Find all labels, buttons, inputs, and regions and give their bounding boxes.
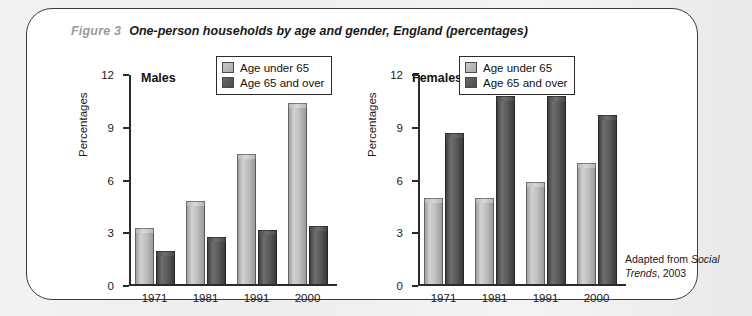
bar-males-2000-under-65 xyxy=(288,103,307,284)
bar-cap xyxy=(526,182,545,187)
x-axis-label-females-1971: 1971 xyxy=(431,292,457,304)
bar-cap xyxy=(424,198,443,203)
legend-swatch-light-icon xyxy=(465,62,477,73)
bar-females-1991-under-65 xyxy=(526,182,545,284)
x-axis-label-females-1981: 1981 xyxy=(482,292,508,304)
bar-males-2000-over-65 xyxy=(309,226,328,284)
y-tick-label-females-12: 12 xyxy=(390,69,403,81)
bar-group-females-1991: 1991 xyxy=(520,75,571,284)
legend-females: Age under 65 Age 65 and over xyxy=(459,56,575,95)
y-tick-label-males-6: 6 xyxy=(108,175,114,187)
bar-males-1981-over-65 xyxy=(207,237,226,284)
y-tick-label-females-6: 6 xyxy=(397,175,403,187)
bar-body xyxy=(156,255,175,284)
bar-body xyxy=(526,186,545,284)
legend-swatch-dark-icon xyxy=(465,77,477,88)
bar-cap xyxy=(186,201,205,206)
x-axis-line-males xyxy=(129,284,337,286)
bar-group-males-1971: 1971 xyxy=(129,75,180,284)
bar-cap xyxy=(598,115,617,120)
bar-body xyxy=(475,202,494,284)
bar-body xyxy=(496,100,515,284)
x-axis-label-females-2000: 2000 xyxy=(584,292,610,304)
y-tick-label-females-0: 0 xyxy=(397,280,403,292)
x-axis-label-males-1981: 1981 xyxy=(193,292,219,304)
bar-group-females-1971: 1971 xyxy=(418,75,469,284)
figure-title-text: One-person households by age and gender,… xyxy=(129,24,528,38)
bar-body xyxy=(135,232,154,284)
bar-body xyxy=(237,158,256,284)
bar-cap xyxy=(547,96,566,101)
y-tick-label-females-9: 9 xyxy=(397,122,403,134)
bar-females-2000-over-65 xyxy=(598,115,617,284)
bar-cap xyxy=(135,228,154,233)
bar-body xyxy=(186,205,205,284)
bar-groups-males: 1971198119912000 xyxy=(129,75,333,284)
x-axis-label-males-1971: 1971 xyxy=(142,292,168,304)
bar-cap xyxy=(258,230,277,235)
bar-body xyxy=(424,202,443,284)
chart-panel-males: Males Percentages 036912 197119811991200… xyxy=(83,65,345,295)
bar-cap xyxy=(445,133,464,138)
y-tick-label-males-3: 3 xyxy=(108,227,114,239)
bar-body xyxy=(598,119,617,284)
x-axis-label-males-2000: 2000 xyxy=(295,292,321,304)
bar-cap xyxy=(237,154,256,159)
bar-males-1971-under-65 xyxy=(135,228,154,284)
bar-males-1981-under-65 xyxy=(186,201,205,284)
y-tick-label-females-3: 3 xyxy=(397,227,403,239)
figure-number: Figure 3 xyxy=(71,24,121,38)
legend-item-over-65-females: Age 65 and over xyxy=(465,75,567,90)
legend-swatch-dark-icon xyxy=(222,77,234,88)
legend-males: Age under 65 Age 65 and over xyxy=(216,56,332,95)
bar-cap xyxy=(475,198,494,203)
y-tick-females-0: 0 xyxy=(412,285,418,287)
legend-item-under-65-males: Age under 65 xyxy=(222,60,324,75)
bar-body xyxy=(445,137,464,284)
bar-cap xyxy=(577,163,596,168)
source-attribution: Adapted from Social Trends, 2003 xyxy=(625,252,735,280)
y-tick-males-0: 0 xyxy=(123,285,129,287)
legend-label-under-65: Age under 65 xyxy=(240,62,309,74)
bar-females-1981-under-65 xyxy=(475,198,494,284)
y-axis-label-females: Percentages xyxy=(366,92,378,157)
legend-label-under-65: Age under 65 xyxy=(483,62,552,74)
bar-group-males-2000: 2000 xyxy=(282,75,333,284)
bar-body xyxy=(309,230,328,284)
bar-body xyxy=(288,107,307,284)
plot-area-males: 036912 1971198119912000 xyxy=(129,75,333,286)
y-tick-label-males-9: 9 xyxy=(108,122,114,134)
figure-card: Figure 3One-person households by age and… xyxy=(26,8,698,300)
bar-cap xyxy=(207,237,226,242)
bar-females-1981-over-65 xyxy=(496,96,515,284)
legend-swatch-light-icon xyxy=(222,62,234,73)
legend-label-over-65: Age 65 and over xyxy=(483,77,567,89)
bar-body xyxy=(207,241,226,284)
bar-group-females-2000: 2000 xyxy=(571,75,622,284)
chart-panel-females: Females Percentages 036912 1971198119912… xyxy=(372,65,634,295)
bar-males-1991-under-65 xyxy=(237,154,256,284)
x-axis-line-females xyxy=(418,284,626,286)
legend-label-over-65: Age 65 and over xyxy=(240,77,324,89)
bar-cap xyxy=(496,96,515,101)
bar-males-1971-over-65 xyxy=(156,251,175,284)
bar-females-1971-under-65 xyxy=(424,198,443,284)
bar-females-2000-under-65 xyxy=(577,163,596,284)
bar-group-males-1981: 1981 xyxy=(180,75,231,284)
bar-groups-females: 1971198119912000 xyxy=(418,75,622,284)
x-axis-label-females-1991: 1991 xyxy=(533,292,559,304)
legend-item-over-65-males: Age 65 and over xyxy=(222,75,324,90)
bar-group-males-1991: 1991 xyxy=(231,75,282,284)
figure-title: Figure 3One-person households by age and… xyxy=(71,24,528,38)
source-suffix: , 2003 xyxy=(657,267,686,279)
bar-cap xyxy=(309,226,328,231)
y-axis-label-males: Percentages xyxy=(77,92,89,157)
bar-males-1991-over-65 xyxy=(258,230,277,285)
legend-item-under-65-females: Age under 65 xyxy=(465,60,567,75)
bar-group-females-1981: 1981 xyxy=(469,75,520,284)
y-tick-label-males-12: 12 xyxy=(101,69,114,81)
bar-cap xyxy=(288,103,307,108)
bar-body xyxy=(577,167,596,284)
x-axis-label-males-1991: 1991 xyxy=(244,292,270,304)
bar-cap xyxy=(156,251,175,256)
